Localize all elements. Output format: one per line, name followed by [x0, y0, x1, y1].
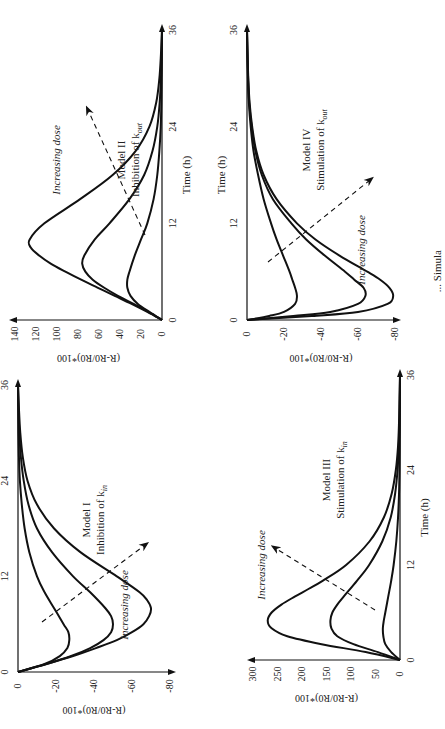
- value-tick-label: -80: [164, 679, 175, 692]
- value-axis-label: (R-R0/R0)*100: [295, 692, 358, 704]
- model-title: Model II: [115, 140, 127, 179]
- time-tick-label: 24: [0, 476, 10, 486]
- time-tick-label: 24: [405, 465, 416, 475]
- value-tick-label: 0: [241, 332, 252, 337]
- value-tick-label: 0: [12, 684, 23, 689]
- caption-fragment: ... Simula: [431, 250, 443, 292]
- value-tick-label: 50: [370, 669, 381, 679]
- model-subtitle: Inhibition of kout: [129, 122, 144, 197]
- increasing-dose-label: Increasing dose: [50, 125, 62, 196]
- value-tick-label: 60: [93, 329, 104, 339]
- model-title: Model IV: [300, 128, 312, 171]
- time-tick-label: 12: [0, 571, 10, 581]
- value-tick-label: 40: [114, 329, 125, 339]
- panel-model-3: 0122436Time (h)050100150200250300(R-R0/R…: [247, 370, 431, 704]
- value-tick-label: 80: [72, 329, 83, 339]
- time-tick-label: 36: [167, 25, 178, 35]
- value-tick-label: -40: [88, 679, 99, 692]
- panel-model-4: 0122436Time (h)0-20-40-60-80(R-R0/R0)*10…: [215, 25, 400, 364]
- value-tick-label: 0: [156, 332, 167, 337]
- time-axis-label: Time (h): [418, 498, 431, 537]
- value-axis-label: (R-R0/R0)*100: [57, 352, 120, 364]
- time-tick-label: 12: [228, 218, 239, 228]
- value-tick-label: 200: [296, 667, 307, 682]
- value-tick-label: -60: [352, 327, 363, 340]
- value-tick-label: 100: [51, 327, 62, 342]
- value-tick-label: 140: [9, 327, 20, 342]
- time-tick-label: 0: [228, 318, 239, 323]
- value-tick-label: -80: [389, 327, 400, 340]
- value-tick-label: -20: [50, 679, 61, 692]
- model-subtitle: Stimulation of kin: [334, 441, 349, 519]
- value-tick-label: -60: [126, 679, 137, 692]
- panel-model-1: 0122436Time (h)0-20-40-60-80(R-R0/R0)*10…: [0, 380, 175, 716]
- response-curve: [29, 30, 162, 320]
- time-tick-label: 36: [228, 25, 239, 35]
- time-tick-label: 0: [405, 658, 416, 663]
- value-tick-label: 20: [135, 329, 146, 339]
- response-curve: [247, 30, 366, 320]
- response-curve: [247, 30, 297, 320]
- time-tick-label: 12: [167, 218, 178, 228]
- model-subtitle: Inhibition of kin: [94, 485, 109, 555]
- model-title: Model I: [80, 502, 92, 537]
- value-tick-label: 150: [321, 667, 332, 682]
- increasing-dose-label: Increasing dose: [255, 530, 267, 601]
- time-axis-label: Time (h): [180, 155, 193, 194]
- value-axis-label: (R-R0/R0)*100: [63, 704, 126, 716]
- value-tick-label: 250: [272, 667, 283, 682]
- value-tick-label: 100: [345, 667, 356, 682]
- value-tick-label: -40: [315, 327, 326, 340]
- panel-model-2: 0122436Time (h)020406080100120140(R-R0/R…: [9, 25, 193, 364]
- response-curve: [18, 385, 69, 672]
- time-tick-label: 36: [405, 370, 416, 380]
- time-tick-label: 24: [228, 122, 239, 132]
- model-subtitle: Stimulation of kout: [314, 108, 329, 191]
- time-tick-label: 24: [167, 122, 178, 132]
- time-tick-label: 12: [405, 560, 416, 570]
- value-tick-label: 300: [247, 667, 258, 682]
- time-tick-label: 0: [167, 318, 178, 323]
- increasing-dose-label: Increasing dose: [355, 215, 367, 286]
- figure: 0122436Time (h)020406080100120140(R-R0/R…: [0, 0, 445, 729]
- value-tick-label: 120: [30, 327, 41, 342]
- value-tick-label: -20: [278, 327, 289, 340]
- increasing-dose-label: Increasing dose: [118, 570, 130, 641]
- increasing-dose-arrow: [275, 548, 375, 610]
- time-tick-label: 36: [0, 380, 10, 390]
- value-axis-label: (R-R0/R0)*100: [290, 352, 353, 364]
- time-tick-label: 0: [0, 670, 10, 675]
- value-tick-label: 0: [394, 672, 405, 677]
- time-axis-label: Time (h): [215, 155, 228, 194]
- svg-text:... Simula: ... Simula: [431, 250, 443, 292]
- model-title: Model III: [320, 458, 332, 501]
